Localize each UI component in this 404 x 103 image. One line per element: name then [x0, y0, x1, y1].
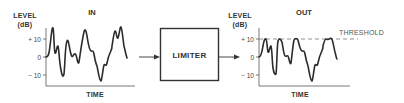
input-arrow	[139, 55, 160, 60]
output-arrow	[219, 55, 240, 60]
input-ylabel-level: LEVEL	[13, 12, 37, 19]
output-xlabel: TIME	[291, 91, 309, 98]
threshold-label: THRESHOLD	[339, 29, 384, 36]
input-xlabel: TIME	[86, 91, 104, 98]
output-tick-minus10: − 10	[241, 72, 254, 79]
output-ylabel-db: (dB)	[233, 21, 248, 29]
limiter-diagram: IN LEVEL (dB) + 10 0 − 10 TIME LIMITER O…	[0, 0, 404, 103]
output-waveform	[259, 38, 337, 81]
output-plot-title: OUT	[296, 8, 312, 17]
input-plot: IN LEVEL (dB) + 10 0 − 10 TIME	[13, 8, 135, 98]
output-tick-0: 0	[250, 54, 254, 61]
input-ylabel-db: (dB)	[18, 21, 33, 29]
output-plot: OUT LEVEL (dB) + 10 0 − 10 TIME THRESHOL…	[228, 8, 384, 98]
input-waveform	[46, 27, 127, 81]
output-ylabel-level: LEVEL	[228, 12, 252, 19]
input-plot-title: IN	[88, 8, 96, 17]
limiter-block: LIMITER	[161, 29, 219, 81]
input-tick-0: 0	[37, 54, 41, 61]
output-tick-plus10: + 10	[241, 36, 254, 43]
input-tick-minus10: − 10	[28, 72, 41, 79]
input-tick-plus10: + 10	[28, 36, 41, 43]
limiter-label: LIMITER	[172, 51, 206, 60]
